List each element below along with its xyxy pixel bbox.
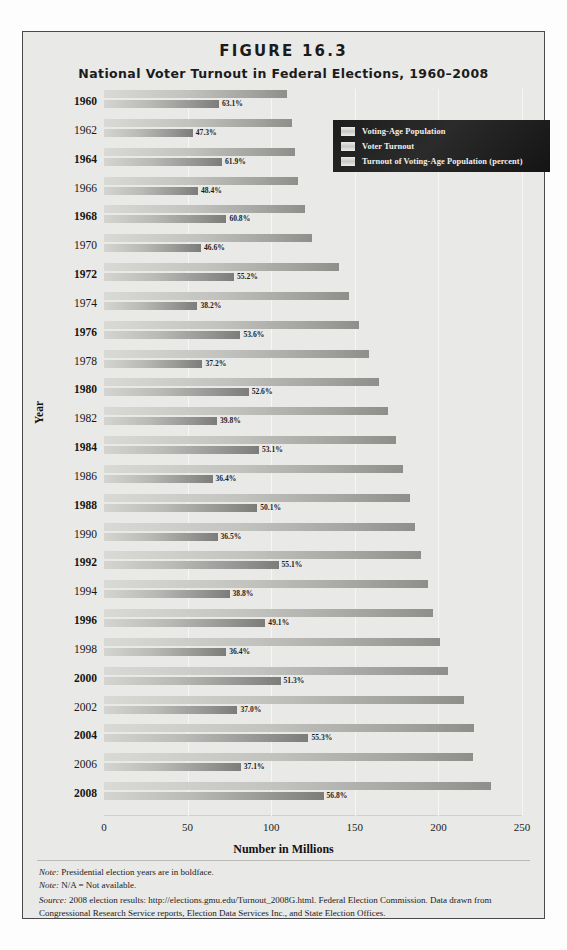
bar-voter-turnout [104, 129, 193, 137]
chart-row: 197046.6% [104, 233, 522, 262]
percent-label-2004: 55.3% [311, 733, 332, 742]
y-axis-title: Year [33, 401, 45, 424]
bar-voter-turnout [104, 533, 218, 541]
chart-row: 197837.2% [104, 349, 522, 378]
bar-voting-age-population [104, 263, 339, 271]
bar-voter-turnout [104, 388, 249, 396]
chart-row: 198850.1% [104, 493, 522, 522]
year-label-1962: 1962 [74, 124, 97, 136]
bar-voter-turnout [104, 100, 219, 108]
percent-label-1988: 50.1% [260, 503, 281, 512]
notes-block: Note: Presidential election years are in… [39, 866, 530, 891]
bar-voting-age-population [104, 724, 474, 732]
note-1-text: Presidential election years are in boldf… [59, 867, 214, 877]
percent-label-1964: 61.9% [225, 157, 246, 166]
year-label-1972: 1972 [74, 268, 97, 280]
x-axis-ticks: 050100150200250 [104, 821, 522, 839]
year-label-1974: 1974 [74, 297, 97, 309]
source-block: Source: 2008 election results: http://el… [39, 894, 530, 919]
chart-row: 196063.1% [104, 89, 522, 118]
chart-row: 200637.1% [104, 752, 522, 781]
bar-voter-turnout [104, 677, 281, 685]
percent-label-1998: 36.4% [229, 647, 250, 656]
year-label-2006: 2006 [74, 758, 97, 770]
x-axis-title: Number in Millions [23, 842, 544, 857]
chart-row: 197653.6% [104, 320, 522, 349]
bar-voter-turnout [104, 475, 213, 483]
bar-voter-turnout [104, 446, 259, 454]
year-label-2008: 2008 [74, 787, 97, 799]
chart-row: 199255.1% [104, 550, 522, 579]
bar-voter-turnout [104, 273, 234, 281]
legend-item-2: Turnout of Voting-Age Population (percen… [341, 154, 550, 169]
percent-label-2006: 37.1% [244, 762, 265, 771]
legend-label: Turnout of Voting-Age Population (percen… [362, 157, 523, 166]
chart-row: 197438.2% [104, 291, 522, 320]
year-label-1966: 1966 [74, 182, 97, 194]
chart-row: 198052.6% [104, 377, 522, 406]
figure-frame: FIGURE 16.3 National Voter Turnout in Fe… [22, 31, 545, 919]
bar-voting-age-population [104, 580, 428, 588]
percent-label-1982: 39.8% [220, 416, 241, 425]
chart-row: 198453.1% [104, 435, 522, 464]
x-tick-100: 100 [263, 821, 280, 833]
x-tick-50: 50 [182, 821, 193, 833]
note-2-text: N/A = Not available. [59, 880, 136, 890]
figure-number: FIGURE 16.3 [23, 42, 544, 60]
source-prefix: Source: [39, 895, 67, 905]
bar-voting-age-population [104, 234, 312, 242]
year-label-1990: 1990 [74, 528, 97, 540]
bar-voter-turnout [104, 734, 308, 742]
legend-item-0: Voting-Age Population [341, 124, 550, 139]
percent-label-1972: 55.2% [237, 272, 258, 281]
year-label-2000: 2000 [74, 672, 97, 684]
bar-voting-age-population [104, 119, 292, 127]
year-label-1968: 1968 [74, 210, 97, 222]
chart-row: 200856.8% [104, 781, 522, 810]
chart-row: 197255.2% [104, 262, 522, 291]
bar-voting-age-population [104, 292, 349, 300]
percent-label-2000: 51.3% [284, 676, 305, 685]
year-label-2002: 2002 [74, 701, 97, 713]
chart-row: 198636.4% [104, 464, 522, 493]
percent-label-1994: 38.8% [233, 589, 254, 598]
bar-voter-turnout [104, 331, 240, 339]
percent-label-1992: 55.1% [282, 560, 303, 569]
chart-row: 199438.8% [104, 579, 522, 608]
year-label-1986: 1986 [74, 470, 97, 482]
legend-swatch-icon [341, 157, 355, 166]
bar-voting-age-population [104, 407, 388, 415]
legend-swatch-icon [341, 142, 355, 151]
source-text: 2008 election results: http://elections.… [39, 895, 492, 918]
x-tick-250: 250 [514, 821, 531, 833]
percent-label-2008: 56.8% [327, 791, 348, 800]
bar-voter-turnout [104, 158, 222, 166]
note-1-prefix: Note: [39, 867, 59, 877]
bar-voter-turnout [104, 244, 201, 252]
bar-voting-age-population [104, 205, 305, 213]
bar-voting-age-population [104, 782, 491, 790]
year-label-1964: 1964 [74, 153, 97, 165]
percent-label-1990: 36.5% [221, 532, 242, 541]
chart-row: 198239.8% [104, 406, 522, 435]
figure-title: National Voter Turnout in Federal Electi… [23, 66, 544, 81]
legend-swatch-icon [341, 127, 355, 136]
bar-voting-age-population [104, 609, 433, 617]
x-tick-150: 150 [347, 821, 364, 833]
chart-row: 199836.4% [104, 637, 522, 666]
year-label-1994: 1994 [74, 585, 97, 597]
year-label-1982: 1982 [74, 412, 97, 424]
bar-voting-age-population [104, 148, 295, 156]
bar-voting-age-population [104, 436, 396, 444]
note-line-1: Note: Presidential election years are in… [39, 866, 530, 879]
bar-voter-turnout [104, 561, 279, 569]
legend-label: Voter Turnout [362, 142, 414, 151]
year-label-1996: 1996 [74, 614, 97, 626]
year-label-1992: 1992 [74, 556, 97, 568]
percent-label-1968: 60.8% [229, 214, 250, 223]
bar-voting-age-population [104, 753, 473, 761]
percent-label-1970: 46.6% [204, 243, 225, 252]
percent-label-2002: 37.0% [240, 705, 261, 714]
bar-voting-age-population [104, 465, 403, 473]
percent-label-1986: 36.4% [216, 474, 237, 483]
